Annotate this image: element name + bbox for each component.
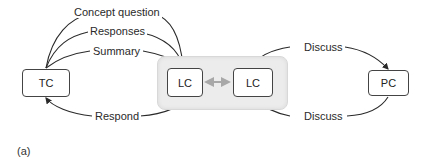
label-responses: Responses xyxy=(88,25,147,37)
label-concept-question: Concept question xyxy=(72,6,162,18)
node-pc: PC xyxy=(368,70,409,96)
label-discuss-top: Discuss xyxy=(302,41,345,53)
node-tc: TC xyxy=(22,69,70,97)
label-discuss-bottom: Discuss xyxy=(302,110,345,122)
node-lc-right: LC xyxy=(233,68,273,97)
figure-caption: (a) xyxy=(17,145,30,157)
label-respond: Respond xyxy=(93,110,141,122)
label-summary: Summary xyxy=(91,45,142,57)
node-lc-left: LC xyxy=(167,68,203,97)
